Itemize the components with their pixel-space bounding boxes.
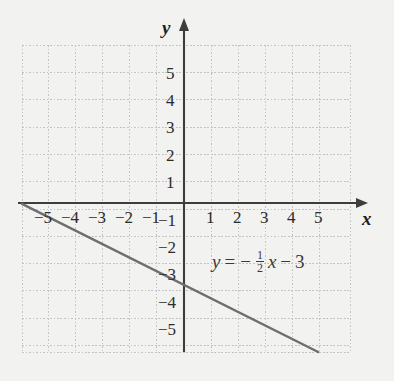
fraction-numerator: 1	[256, 249, 264, 261]
y-tick-label--1: −1	[158, 212, 176, 229]
equation-annotation: y = − 1 2 x − 3	[212, 249, 305, 274]
y-tick-label--3: −3	[158, 266, 176, 283]
equation-constant: 3	[295, 252, 305, 271]
equation-slope-sign: −	[239, 252, 252, 271]
y-tick-label-2: 2	[166, 147, 175, 164]
x-tick-label-1: 1	[206, 209, 215, 226]
equation-fraction-one-half: 1 2	[256, 249, 264, 274]
y-tick-label-4: 4	[166, 92, 175, 109]
equation-constant-sign: −	[279, 252, 292, 271]
x-tick-label--3: −3	[88, 209, 106, 226]
y-tick-label--2: −2	[158, 239, 176, 256]
x-tick-label-4: 4	[287, 209, 296, 226]
x-tick-label--4: −4	[61, 209, 79, 226]
coordinate-plane-graph	[0, 0, 394, 381]
y-axis-label: y	[162, 18, 170, 37]
y-tick-label--4: −4	[158, 294, 176, 311]
fraction-denominator: 2	[256, 261, 264, 274]
x-axis-label: x	[362, 209, 372, 228]
x-tick-label-5: 5	[314, 209, 323, 226]
equation-variable: x	[268, 252, 276, 271]
y-tick-label-3: 3	[166, 119, 175, 136]
x-tick-label--2: −2	[115, 209, 133, 226]
graph-background	[0, 0, 394, 381]
equation-equals: =	[223, 252, 236, 271]
x-tick-label--5: −5	[34, 209, 52, 226]
y-tick-label-1: 1	[166, 174, 175, 191]
x-tick-label-3: 3	[260, 209, 269, 226]
equation-lhs: y	[212, 252, 220, 271]
y-tick-label--5: −5	[158, 321, 176, 338]
x-tick-label-2: 2	[233, 209, 242, 226]
y-tick-label-5: 5	[166, 65, 175, 82]
